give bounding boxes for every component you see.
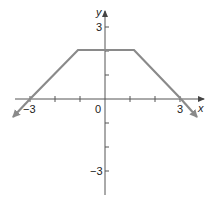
- right-arrow-ray: [181, 99, 197, 117]
- y-tick-label-pos3: 3: [96, 21, 102, 33]
- y-tick-label-neg3: −3: [90, 165, 103, 177]
- graph: y x −3 0 3 3 −3: [0, 0, 216, 200]
- x-tick-label-neg3: −3: [23, 103, 36, 115]
- y-axis-label: y: [95, 6, 103, 18]
- x-axis-label: x: [197, 102, 204, 114]
- x-tick-label-pos3: 3: [177, 103, 183, 115]
- x-tick-label-zero: 0: [95, 103, 101, 115]
